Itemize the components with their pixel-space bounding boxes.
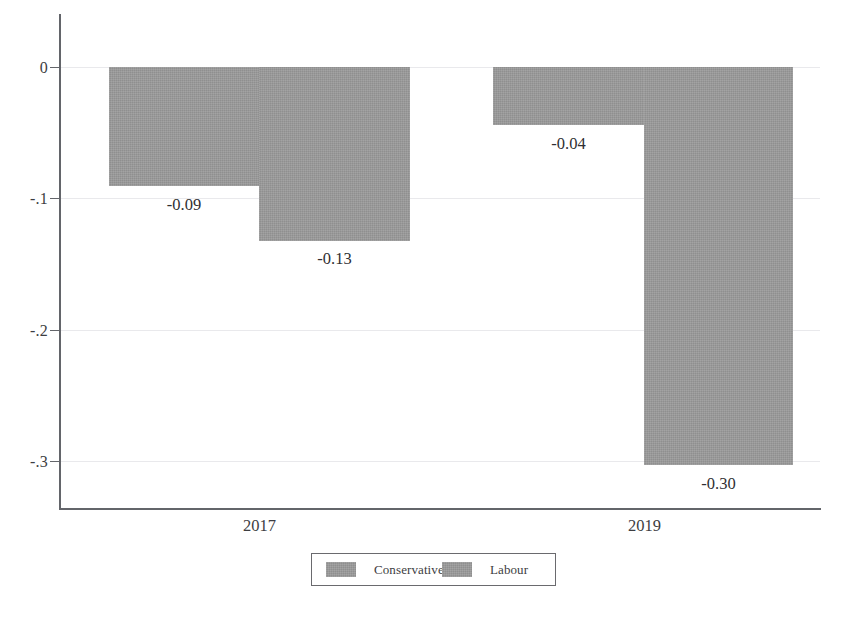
bar-value-2019-conservatives: -0.04	[493, 136, 644, 153]
legend-swatch-labour	[442, 562, 472, 577]
legend-swatch-conservatives	[326, 562, 356, 577]
bar-2017-conservatives[interactable]	[109, 67, 259, 186]
legend-item-conservatives[interactable]: Conservatives	[326, 554, 449, 585]
bar-value-2019-labour: -0.30	[644, 476, 793, 493]
x-axis-label-2019: 2019	[569, 518, 720, 535]
bar-2017-labour[interactable]	[259, 67, 410, 241]
legend-label-labour: Labour	[490, 562, 528, 578]
y-axis-label-n03: -.3	[4, 454, 48, 470]
bar-2019-conservatives[interactable]	[493, 67, 644, 125]
bar-2019-labour[interactable]	[644, 67, 793, 465]
y-axis-line	[59, 14, 61, 510]
bar-chart: 0 -.1 -.2 -.3 -0.09 -0.13 -0.04 -0.30 20…	[0, 0, 863, 619]
y-axis-label-0: 0	[4, 60, 48, 76]
legend-label-conservatives: Conservatives	[374, 562, 449, 578]
bar-value-2017-conservatives: -0.09	[109, 197, 259, 214]
legend-item-labour[interactable]: Labour	[442, 554, 528, 585]
y-axis-label-n01: -.1	[4, 191, 48, 207]
bar-value-2017-labour: -0.13	[259, 251, 410, 268]
x-axis-line	[59, 508, 821, 510]
y-axis-label-n02: -.2	[4, 323, 48, 339]
x-axis-label-2017: 2017	[184, 518, 335, 535]
chart-legend: Conservatives Labour	[311, 553, 556, 586]
